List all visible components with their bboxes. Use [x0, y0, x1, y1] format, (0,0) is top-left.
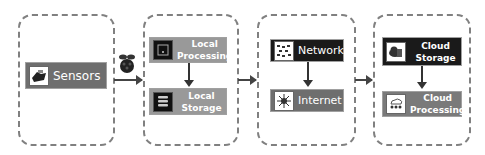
- arrow-sensors-to-local: [114, 79, 142, 81]
- network-node: Network: [270, 39, 344, 62]
- network-label: Network: [298, 45, 344, 57]
- sensors-node: Sensors: [25, 62, 107, 89]
- cpu-icon: [153, 40, 173, 60]
- cloud-server-icon: [386, 42, 406, 62]
- local-processing-label-2: Processing: [177, 51, 232, 61]
- local-storage-node: LocalStorage: [149, 88, 227, 115]
- sensors-label: Sensors: [53, 70, 106, 82]
- arrow-network-to-cloud: [355, 79, 372, 81]
- internet-node: Internet: [270, 89, 344, 112]
- raspberry-pi-icon: [118, 54, 136, 74]
- cloud-processing-label-1: Cloud: [423, 93, 452, 103]
- database-icon: [153, 92, 173, 112]
- globe-icon: [274, 91, 294, 111]
- network-icon: [274, 41, 294, 61]
- internet-label: Internet: [298, 95, 343, 107]
- arrow-network-to-internet: [307, 62, 309, 85]
- sensor-icon: [29, 66, 49, 86]
- arrow-storage-to-processing: [421, 66, 423, 87]
- arrow-processing-to-storage: [188, 63, 190, 85]
- cloud-processing-label-2: Processing: [410, 105, 465, 115]
- local-processing-node: LocalProcessing: [149, 37, 227, 63]
- local-storage-label-2: Storage: [181, 103, 221, 113]
- cloud-storage-label-1: Cloud: [421, 41, 450, 51]
- local-storage-label-1: Local: [188, 91, 214, 101]
- cloud-storage-label-2: Storage: [415, 53, 455, 63]
- local-processing-label-1: Local: [191, 39, 217, 49]
- cloud-processing-node: CloudProcessing: [382, 91, 462, 117]
- arrow-local-to-network: [238, 79, 256, 81]
- cloud-users-icon: [386, 94, 406, 114]
- cloud-storage-node: CloudStorage: [382, 37, 462, 66]
